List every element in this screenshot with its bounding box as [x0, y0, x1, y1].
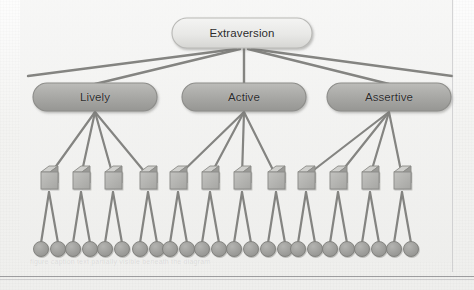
- indicator-circle[interactable]: [340, 242, 355, 257]
- facet-edge-assertive-4: [389, 112, 402, 176]
- root-edge-lively: [95, 49, 240, 84]
- indicator-circle-group: [34, 242, 419, 257]
- figure-caption-ghost: figure caption text partially visible be…: [30, 258, 440, 268]
- square-edge-6a: [202, 192, 210, 243]
- item-square[interactable]: [298, 166, 315, 189]
- square-edge-1b: [49, 192, 58, 243]
- square-edge-11a: [362, 192, 370, 243]
- indicator-circle[interactable]: [308, 242, 323, 257]
- indicator-circle[interactable]: [404, 242, 419, 257]
- square-edge-8a: [268, 192, 276, 243]
- indicator-circle[interactable]: [51, 242, 66, 257]
- indicator-circle[interactable]: [133, 242, 148, 257]
- square-edge-6b: [210, 192, 219, 243]
- indicator-circle[interactable]: [372, 242, 387, 257]
- root-edge-far-right: [252, 49, 452, 76]
- item-square[interactable]: [330, 166, 347, 189]
- item-square-group: [41, 166, 411, 189]
- square-edge-5a: [170, 192, 178, 243]
- indicator-circle[interactable]: [355, 242, 370, 257]
- item-square[interactable]: [41, 166, 58, 189]
- square-edge-10b: [338, 192, 347, 243]
- node-lively-shape[interactable]: [33, 83, 157, 111]
- square-edge-10a: [330, 192, 338, 243]
- root-edge-assertive: [248, 49, 389, 84]
- indicator-circle[interactable]: [163, 242, 178, 257]
- square-edge-12a: [394, 192, 402, 243]
- indicator-circle[interactable]: [66, 242, 81, 257]
- diagram-svg: [0, 0, 474, 290]
- square-edge-9a: [298, 192, 306, 243]
- node-active-shape[interactable]: [182, 83, 306, 111]
- item-square[interactable]: [394, 166, 411, 189]
- indicator-circle[interactable]: [323, 242, 338, 257]
- indicator-circle[interactable]: [195, 242, 210, 257]
- square-edge-4b: [148, 192, 157, 243]
- indicator-circle[interactable]: [83, 242, 98, 257]
- item-square[interactable]: [268, 166, 285, 189]
- indicator-circle[interactable]: [244, 242, 259, 257]
- square-edge-8b: [276, 192, 285, 243]
- square-edge-1a: [41, 192, 49, 243]
- item-square[interactable]: [73, 166, 90, 189]
- square-connector-lines: [41, 192, 411, 243]
- square-edge-11b: [370, 192, 379, 243]
- item-square[interactable]: [202, 166, 219, 189]
- page-rule-secondary: [0, 279, 474, 280]
- item-square[interactable]: [170, 166, 187, 189]
- square-edge-12b: [402, 192, 411, 243]
- page-rule-primary: [0, 276, 474, 277]
- node-active[interactable]: [182, 83, 306, 111]
- indicator-circle[interactable]: [180, 242, 195, 257]
- item-square[interactable]: [234, 166, 251, 189]
- node-extraversion-shape[interactable]: [172, 18, 312, 48]
- indicator-circle[interactable]: [291, 242, 306, 257]
- panel-right-edge: [452, 0, 453, 272]
- square-edge-7b: [242, 192, 251, 243]
- square-edge-5b: [178, 192, 187, 243]
- square-edge-3b: [113, 192, 122, 243]
- indicator-circle[interactable]: [212, 242, 227, 257]
- node-assertive[interactable]: [327, 83, 451, 111]
- square-edge-2a: [73, 192, 81, 243]
- indicator-circle[interactable]: [34, 242, 49, 257]
- indicator-circle[interactable]: [261, 242, 276, 257]
- facet-connector-lines: [49, 112, 402, 176]
- figure-canvas: Extraversion Lively Active Assertive fig…: [0, 0, 474, 290]
- indicator-circle[interactable]: [115, 242, 130, 257]
- item-square[interactable]: [362, 166, 379, 189]
- indicator-circle[interactable]: [98, 242, 113, 257]
- item-square[interactable]: [105, 166, 122, 189]
- node-extraversion[interactable]: [172, 18, 312, 48]
- indicator-circle[interactable]: [387, 242, 402, 257]
- square-edge-3a: [105, 192, 113, 243]
- square-edge-7a: [234, 192, 242, 243]
- square-edge-2b: [81, 192, 90, 243]
- square-edge-9b: [306, 192, 315, 243]
- square-edge-4a: [140, 192, 148, 243]
- node-assertive-shape[interactable]: [327, 83, 451, 111]
- root-edge-far-left: [28, 49, 236, 76]
- root-connector-lines: [28, 49, 452, 84]
- indicator-circle[interactable]: [227, 242, 242, 257]
- node-lively[interactable]: [33, 83, 157, 111]
